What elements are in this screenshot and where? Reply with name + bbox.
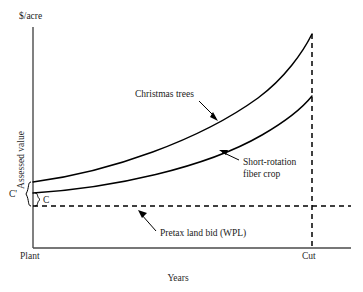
chart-figure: $/acre Assessed value Years Plant Cut C'… bbox=[0, 0, 363, 292]
unit-label: $/acre bbox=[19, 11, 42, 21]
annotation-fiber-crop-label-line1: Short-rotation bbox=[243, 157, 297, 167]
chart-canvas: $/acre Assessed value Years Plant Cut C'… bbox=[0, 0, 363, 292]
bracket-c bbox=[35, 193, 40, 206]
x-axis-label: Years bbox=[167, 273, 189, 283]
annotation-pretax-land-bid-label: Pretax land bid (WPL) bbox=[160, 228, 246, 239]
bracket-c-label: C bbox=[43, 195, 49, 205]
annotation-pretax-land-bid-arrowhead bbox=[138, 210, 147, 218]
annotation-christmas-trees-label: Christmas trees bbox=[135, 89, 194, 99]
bracket-c-prime-label: C' bbox=[9, 189, 17, 199]
y-axis-label: Assessed value bbox=[16, 131, 26, 189]
x-tick-label-plant: Plant bbox=[20, 251, 40, 261]
annotation-fiber-crop-label-line2: fiber crop bbox=[243, 169, 280, 179]
bracket-c-prime bbox=[26, 182, 31, 206]
x-tick-label-cut: Cut bbox=[302, 251, 316, 261]
